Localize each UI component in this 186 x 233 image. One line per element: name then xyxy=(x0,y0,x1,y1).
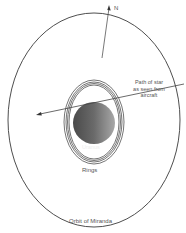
diagram-graphic xyxy=(0,0,186,233)
uranus-label: Uranus xyxy=(82,144,100,151)
uranus-planet xyxy=(73,102,115,144)
star-path-label: Path of star as seen from aircraft xyxy=(127,79,171,99)
star-path-label-line3: aircraft xyxy=(127,92,171,99)
rings-label: Rings xyxy=(82,167,97,174)
north-arrow xyxy=(102,5,111,58)
uranus-occultation-diagram: N Path of star as seen from aircraft Ura… xyxy=(0,0,186,233)
orbit-label: Orbit of Miranda xyxy=(69,218,112,225)
north-label: N xyxy=(114,5,118,12)
